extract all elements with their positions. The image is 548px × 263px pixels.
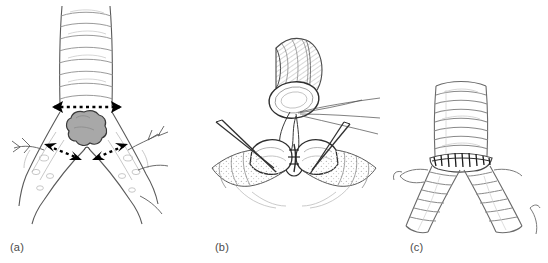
panel-b-label: (b) (215, 241, 229, 253)
anastomosis (430, 153, 492, 172)
tumor-mass (67, 111, 107, 146)
panel-a-illustration (0, 0, 190, 263)
panel-c-illustration (380, 0, 548, 263)
side-branches (393, 169, 540, 234)
left-main-bronchus (406, 166, 460, 233)
right-bronchial-stump (296, 140, 376, 188)
right-main-bronchus (464, 166, 522, 233)
trachea (59, 6, 113, 106)
panel-b: (b) (190, 0, 380, 263)
tracheal-rings (434, 91, 488, 149)
resection-line-left-bronchus (44, 143, 82, 160)
panel-c-label: (c) (410, 241, 423, 253)
tracheal-cartilage-rings (59, 12, 113, 99)
trachea-reconstructed (434, 82, 488, 157)
resection-line-right-bronchus (92, 143, 128, 160)
panel-a-label: (a) (10, 241, 24, 253)
left-bronchial-stump (212, 140, 292, 188)
panel-c: (c) (380, 0, 548, 263)
figure-carinal-resection: (a) (0, 0, 548, 263)
soft-tissue-shading (236, 186, 350, 208)
panel-b-illustration (190, 0, 380, 263)
panel-a: (a) (0, 0, 190, 263)
